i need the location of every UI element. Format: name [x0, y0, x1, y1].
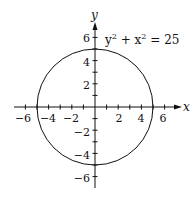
y-tick-label: 2: [83, 79, 90, 92]
y-tick-label: −2: [74, 126, 90, 139]
x-tick-label: 4: [138, 112, 145, 125]
equation-label: y2 + x2 = 25: [104, 32, 179, 47]
x-axis-label: x: [183, 100, 190, 114]
x-tick-label: −2: [63, 112, 79, 125]
x-tick-label: −6: [15, 112, 31, 125]
x-axis-arrow-icon: [174, 105, 182, 110]
y-tick-label: 4: [83, 56, 90, 69]
y-tick-label: −6: [74, 172, 90, 185]
circle-plot: x y −6 −4 −2 2 4 6 6 4 2 −2 −4 −6 y2 + x…: [0, 0, 193, 202]
equation-rhs: 25: [164, 33, 179, 47]
y-axis-label: y: [90, 8, 98, 22]
y-tick-label: −4: [74, 149, 90, 162]
x-tick-label: 6: [160, 112, 167, 125]
y-axis-arrow-icon: [93, 22, 98, 30]
x-tick-label: −4: [40, 112, 56, 125]
x-tick-label: 2: [116, 112, 123, 125]
y-tick-label: 6: [83, 32, 90, 45]
